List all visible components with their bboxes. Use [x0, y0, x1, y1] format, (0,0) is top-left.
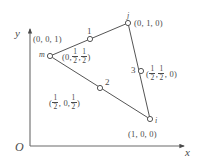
node-coord-3-fraction-2: 12	[158, 65, 164, 82]
fraction-denominator: 2	[81, 57, 87, 65]
node-marker-1[interactable]	[87, 36, 92, 41]
diagram-vector-layer	[0, 0, 199, 166]
node-coord-1-prefix: (0,	[62, 52, 72, 62]
node-coord-2-fraction-2: 12	[71, 94, 77, 111]
fraction-denominator: 2	[72, 57, 78, 65]
fraction-denominator: 2	[52, 103, 58, 111]
node-coord-3: (12,12, 0)	[146, 65, 177, 82]
node-marker-j[interactable]	[125, 20, 130, 25]
node-coord-3-suffix: , 0)	[165, 69, 177, 79]
y-axis-label: y	[15, 28, 20, 39]
node-coord-1-suffix: )	[88, 52, 91, 62]
node-coord-1-fraction-1: 12	[72, 48, 78, 65]
fraction-denominator: 2	[158, 74, 164, 82]
origin-label: O	[15, 141, 24, 153]
node-coord-m: (0, 0, 1)	[33, 35, 62, 44]
node-coord-2-fraction-1: 12	[52, 94, 58, 111]
node-coord-2-separator: , 0,	[59, 98, 70, 108]
node-label-i: i	[155, 117, 157, 125]
node-label-1: 1	[87, 27, 92, 36]
node-coord-2: (12, 0,12)	[49, 94, 80, 111]
node-label-j: j	[127, 12, 129, 20]
diagram-canvas: y x O m (0, 0, 1) 1 (0,12,12) j (0, 1, 0…	[0, 0, 199, 166]
node-label-m: m	[39, 51, 45, 59]
node-marker-m[interactable]	[47, 53, 52, 58]
node-marker-3[interactable]	[138, 68, 143, 73]
fraction-denominator: 2	[149, 74, 155, 82]
x-axis-label: x	[185, 147, 190, 158]
node-marker-i[interactable]	[147, 116, 152, 121]
node-marker-2[interactable]	[97, 85, 102, 90]
node-coord-i: (1, 0, 0)	[128, 130, 157, 139]
node-coord-1-fraction-2: 12	[81, 48, 87, 65]
node-label-3: 3	[131, 66, 136, 75]
node-label-2: 2	[105, 78, 110, 87]
node-coord-j: (0, 1, 0)	[134, 19, 163, 28]
node-coord-3-fraction-1: 12	[149, 65, 155, 82]
node-coord-2-suffix: )	[77, 98, 80, 108]
node-coord-1: (0,12,12)	[62, 48, 91, 65]
fraction-denominator: 2	[71, 103, 77, 111]
